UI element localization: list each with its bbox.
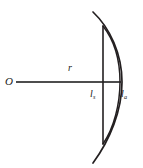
inner-arc-path [103, 26, 120, 144]
radius-label: r [68, 63, 72, 73]
arc-sagitta-diagram: O r ls la [0, 0, 143, 168]
arc-length-label: la [121, 89, 127, 99]
chord-length-label: ls [90, 89, 95, 99]
chord-subscript: s [93, 93, 95, 100]
outer-arc-path [93, 12, 122, 163]
arc-subscript: a [124, 93, 127, 100]
center-point-label: O [5, 76, 13, 87]
diagram-canvas [0, 0, 143, 168]
